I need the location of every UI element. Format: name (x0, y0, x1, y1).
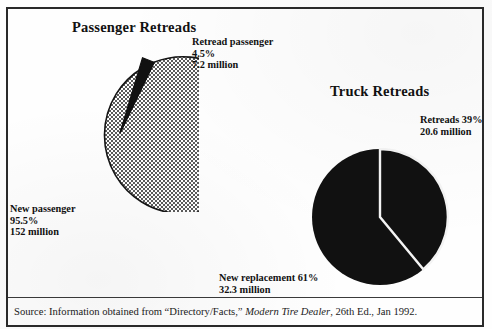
truck-new-replacement-callout-line1: New replacement 61% (219, 272, 318, 284)
passenger-retread-callout-line3: 7.2 million (192, 59, 273, 71)
passenger-pie-svg (41, 54, 199, 212)
passenger-chart-title: Passenger Retreads (72, 19, 196, 36)
truck-pie-svg (311, 148, 449, 286)
source-note: Source: Information obtained from “Direc… (14, 306, 417, 317)
source-note-publication: Modern Tire Dealer (245, 306, 330, 317)
passenger-new-callout-line1: New passenger (10, 203, 76, 215)
passenger-retread-callout-line2: 4.5% (192, 48, 273, 60)
frame-bottom-rule (6, 325, 484, 327)
truck-retreads-callout: Retreads 39% 20.6 million (420, 114, 482, 137)
truck-retreads-callout-line2: 20.6 million (420, 126, 482, 138)
frame-source-divider (8, 297, 482, 298)
truck-new-replacement-callout-line2: 32.3 million (219, 284, 318, 296)
truck-new-replacement-callout: New replacement 61% 32.3 million (219, 272, 318, 295)
passenger-retread-callout: Retread passenger 4.5% 7.2 million (192, 36, 273, 71)
passenger-pie-chart (41, 54, 199, 212)
source-note-suffix: , 26th Ed., Jan 1992. (330, 306, 417, 317)
frame-right-rule (482, 7, 484, 327)
passenger-retread-callout-line1: Retread passenger (192, 36, 273, 48)
truck-chart-title: Truck Retreads (330, 83, 429, 100)
frame-left-rule (6, 7, 8, 327)
frame-top-rule (6, 7, 484, 9)
passenger-new-callout: New passenger 95.5% 152 million (10, 203, 76, 238)
source-note-prefix: Source: Information obtained from “Direc… (14, 306, 245, 317)
truck-pie-chart (311, 148, 449, 286)
figure-page: Passenger Retreads Retread passenger 4.5… (0, 0, 492, 329)
truck-retreads-callout-line1: Retreads 39% (420, 114, 482, 126)
passenger-slice-new (104, 57, 199, 212)
passenger-new-callout-line3: 152 million (10, 226, 76, 238)
passenger-new-callout-line2: 95.5% (10, 215, 76, 227)
